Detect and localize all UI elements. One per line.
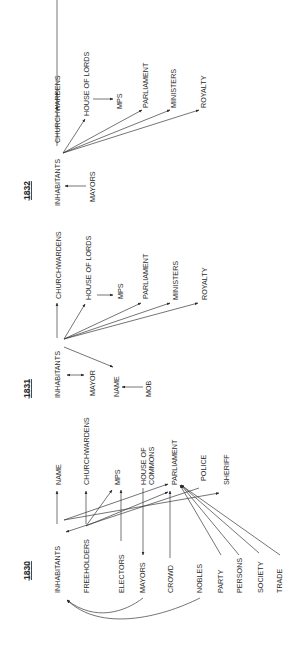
edge-party-parliament: [180, 485, 221, 555]
node-churchwardens: CHURCHWARDENS: [82, 417, 91, 485]
year-label-1831: 1831: [22, 379, 32, 398]
node-inhabitants: INHABITANTS: [53, 546, 62, 593]
node-freeholders: FREEHOLDERS: [82, 539, 91, 593]
node-churchwardens: CHURCHWARDENS: [54, 231, 63, 299]
node-name: NAME: [54, 464, 63, 485]
node-house-of-commons-line2: COMMONS: [147, 446, 156, 485]
edge-mayors-inhabitants-curved: [67, 598, 143, 613]
edge-inhabitants-parliament: [64, 484, 168, 520]
year-label-1830: 1830: [22, 561, 32, 580]
edge-inhabitants-ministers: [63, 110, 170, 153]
node-persons: PERSONS: [235, 558, 244, 593]
node-trade: TRADE: [275, 568, 284, 593]
edge-inhabitants-ministers: [64, 303, 170, 339]
node-royalty: ROYALTY: [199, 75, 208, 108]
edge-society-parliament: [181, 485, 259, 553]
node-mob: MOB: [144, 380, 153, 397]
node-police: POLICE: [199, 454, 208, 481]
node-parliament: PARLIAMENT: [170, 439, 179, 485]
edge-inhabitants-parliament: [64, 303, 141, 339]
panel-1831: 1831 INHABITANTS CHURCHWARDENS HOUSE OF …: [22, 231, 209, 399]
network-diagram: 1832 INHABITANTS CHURCHWARDENS HOUSE OF …: [0, 0, 298, 668]
node-electors: ELECTORS: [117, 554, 126, 593]
node-mps: MPS: [116, 283, 125, 299]
node-mps: MPS: [115, 93, 124, 109]
panel-1830: 1830 INHABITANTS FREEHOLDERS ELECTORS MA…: [22, 417, 284, 619]
node-inhabitants: INHABITANTS: [53, 159, 62, 206]
node-house-of-lords: HOUSE OF LORDS: [82, 51, 91, 116]
node-mayors: MAYORS: [138, 562, 147, 593]
node-party: PARTY: [216, 569, 225, 593]
node-mayors: MAYORS: [88, 171, 97, 202]
edge-inhabitants-house-of-lords: [63, 119, 85, 153]
edge-nobles-inhabitants-curved: [67, 598, 200, 619]
node-ministers: MINISTERS: [169, 69, 178, 108]
year-label-1832: 1832: [22, 181, 32, 200]
node-parliament: PARLIAMENT: [141, 62, 150, 108]
node-name: NAME: [112, 376, 121, 397]
edge-inhabitants-royalty: [64, 303, 198, 339]
node-sheriff: SHERIFF: [222, 454, 231, 485]
edge-inhabitants-name: [64, 347, 113, 367]
node-mps: MPS: [113, 469, 122, 485]
node-house-of-lords: HOUSE OF LORDS: [84, 235, 93, 300]
node-nobles: NOBLES: [195, 564, 204, 593]
edge-inhabitants-sheriff: [64, 493, 219, 520]
node-inhabitants: INHABITANTS: [53, 351, 62, 398]
node-churchwardens: CHURCHWARDENS: [53, 75, 62, 143]
node-mayor: MAYOR: [88, 370, 97, 396]
node-ministers: MINISTERS: [171, 261, 180, 300]
panel-1832: 1832 INHABITANTS CHURCHWARDENS HOUSE OF …: [22, 0, 208, 206]
node-parliament: PARLIAMENT: [141, 253, 150, 299]
node-royalty: ROYALTY: [200, 267, 209, 300]
node-society: SOCIETY: [256, 561, 265, 593]
node-crowd: CROWD: [166, 565, 175, 593]
